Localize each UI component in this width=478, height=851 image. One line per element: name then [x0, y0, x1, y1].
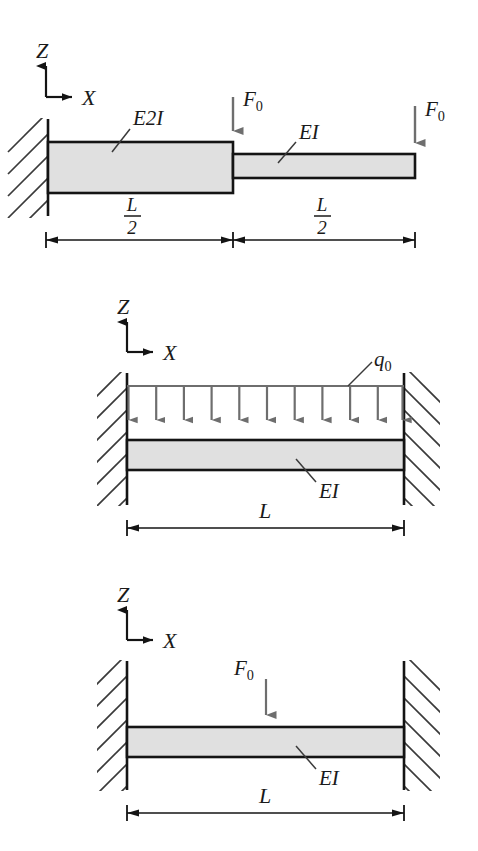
z-axis-label: Z — [117, 294, 130, 319]
dim-label-right-half: L 2 — [314, 194, 331, 238]
beam-label-ei: EI — [298, 120, 320, 144]
beam-diagrams-canvas: Z X E2I — [0, 0, 478, 851]
figure-1-group: Z X E2I — [8, 38, 445, 262]
force-label-end: F0 — [424, 97, 445, 124]
x-axis-label: X — [162, 628, 178, 653]
beam-label-ei: EI — [318, 479, 340, 503]
force-label-mid: F0 — [233, 656, 254, 683]
figure-3-fixed-support-right — [404, 654, 444, 826]
dim-label-span: L — [258, 783, 271, 808]
dim-label-span: L — [258, 498, 271, 523]
figure-3-dimensions: L — [127, 783, 404, 821]
svg-text:2: 2 — [127, 217, 137, 238]
figure-2-group: Z X — [87, 294, 444, 538]
figure-2-axes: Z X — [117, 294, 178, 365]
figure-sheet: Z X E2I — [0, 0, 478, 851]
beam-label-ei: EI — [318, 766, 340, 790]
x-axis-label: X — [81, 85, 97, 110]
figure-2-fixed-support-right — [404, 366, 444, 538]
dim-label-left-half: L 2 — [124, 194, 141, 238]
wall-hatching-right — [404, 366, 444, 538]
beam-body — [127, 727, 404, 757]
figure-1-axes: Z X — [36, 38, 97, 110]
figure-3-axes: Z X — [117, 582, 178, 653]
wall-hatching-left — [87, 366, 127, 538]
z-axis-label: Z — [36, 38, 49, 63]
distributed-load-arrows — [129, 386, 403, 420]
svg-text:2: 2 — [317, 217, 327, 238]
wall-hatching — [8, 112, 48, 262]
svg-text:L: L — [316, 194, 328, 215]
figure-3-fixed-support-left — [87, 654, 127, 826]
beam-label-e2i: E2I — [132, 106, 164, 130]
x-axis-label: X — [162, 340, 178, 365]
distributed-load-label: q0 — [374, 347, 392, 374]
q0-leader-line — [348, 362, 372, 386]
figure-2-fixed-support-left — [87, 366, 127, 538]
figure-1-dimensions: L 2 L 2 — [46, 194, 415, 248]
wall-hatching-right — [404, 654, 444, 826]
beam-body — [127, 440, 404, 470]
force-label-mid: F0 — [242, 87, 263, 114]
wall-hatching-left — [87, 654, 127, 826]
svg-text:L: L — [126, 194, 138, 215]
figure-3-group: Z X — [87, 582, 444, 826]
z-axis-label: Z — [117, 582, 130, 607]
figure-2-dimensions: L — [127, 498, 404, 536]
figure-1-fixed-support — [8, 112, 48, 262]
distributed-load-group — [127, 386, 404, 420]
beam-segment-thick — [48, 142, 233, 193]
beam-segment-thin — [233, 154, 415, 178]
